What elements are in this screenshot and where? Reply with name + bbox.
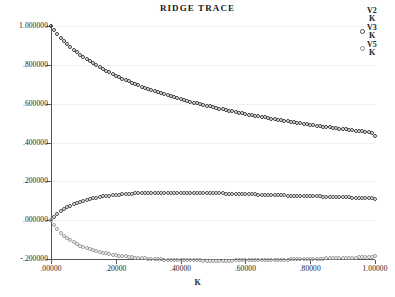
chart-title: RIDGE TRACE bbox=[0, 3, 395, 13]
plot-area bbox=[51, 26, 375, 259]
x-axis-label: .80000 bbox=[280, 264, 340, 273]
y-axis-label: .600000 bbox=[2, 99, 48, 108]
x-axis-label: .00000 bbox=[21, 264, 81, 273]
series-v5-k bbox=[51, 26, 375, 259]
x-axis-label: .40000 bbox=[151, 264, 211, 273]
y-axis-label: .800000 bbox=[2, 60, 48, 69]
legend-label: V5K bbox=[367, 41, 393, 57]
y-axis-label: 1.000000 bbox=[2, 21, 48, 30]
legend-entry: V2K bbox=[360, 8, 394, 25]
y-axis-label: -.200000 bbox=[2, 254, 48, 263]
chart-legend: V2KV3KV5K bbox=[360, 8, 394, 59]
y-axis-label: .400000 bbox=[2, 138, 48, 147]
y-axis-label: .200000 bbox=[2, 176, 48, 185]
legend-marker-icon bbox=[360, 29, 365, 34]
x-axis-title: K bbox=[0, 278, 395, 287]
legend-denominator: K bbox=[367, 15, 393, 23]
y-axis-label: .000000 bbox=[2, 215, 48, 224]
x-axis-label: 1.00000 bbox=[345, 264, 395, 273]
legend-denominator: K bbox=[367, 32, 393, 40]
legend-label: V3K bbox=[367, 24, 393, 40]
legend-entry: V3K bbox=[360, 25, 394, 42]
legend-marker-icon bbox=[360, 12, 365, 17]
legend-entry: V5K bbox=[360, 42, 394, 59]
chart-root: RIDGE TRACE 1.000000.800000.600000.40000… bbox=[0, 0, 395, 297]
data-point bbox=[49, 218, 53, 222]
legend-label: V2K bbox=[367, 7, 393, 23]
legend-denominator: K bbox=[367, 49, 393, 57]
legend-marker-icon bbox=[360, 46, 365, 51]
data-point bbox=[373, 254, 377, 258]
x-axis-label: .20000 bbox=[86, 264, 146, 273]
x-axis-label: .60000 bbox=[215, 264, 275, 273]
